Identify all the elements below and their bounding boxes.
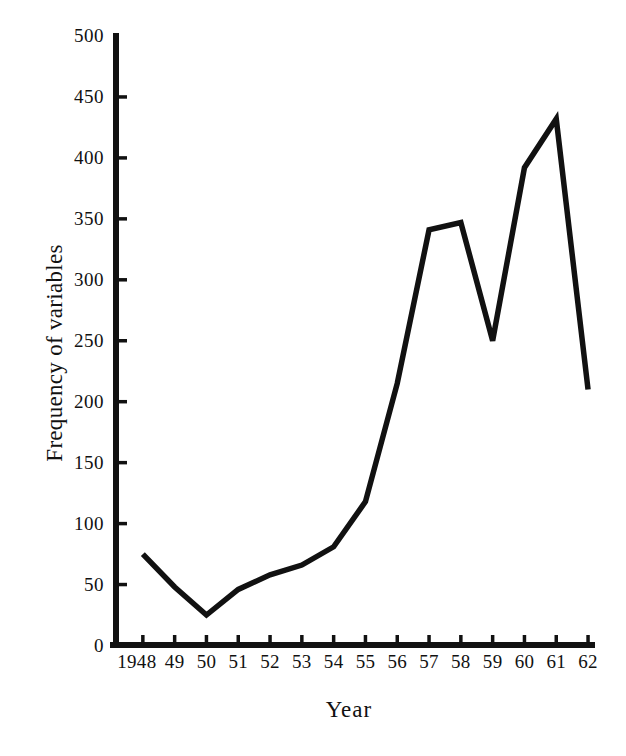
data-series-line <box>143 119 588 615</box>
line-chart-figure: Frequency of variables Year 050100150200… <box>0 0 626 756</box>
axis-lines <box>113 36 592 645</box>
plot-area <box>0 0 626 756</box>
x-axis-tick-marks <box>143 635 588 643</box>
